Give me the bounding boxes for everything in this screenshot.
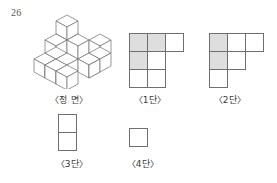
grid-cell <box>129 69 148 88</box>
caption-level4: 〈4단〉 <box>108 157 178 170</box>
isometric-solid-figure <box>26 9 112 89</box>
grid-cell <box>227 33 246 52</box>
isometric-solid-svg <box>26 9 112 89</box>
grid-cell <box>129 33 148 52</box>
grid-cell <box>165 33 184 52</box>
grid-cell <box>209 51 228 70</box>
caption-level3: 〈3단〉 <box>37 157 107 170</box>
grid-cell <box>227 51 246 70</box>
caption-level1: 〈1단〉 <box>115 93 185 106</box>
problem-number: 26 <box>11 7 21 18</box>
caption-level2: 〈2단〉 <box>195 93 265 106</box>
grid-cell <box>209 69 228 88</box>
grid-cell <box>209 33 228 52</box>
grid-cell <box>245 33 264 52</box>
grid-cell <box>147 33 166 52</box>
grid-cell <box>147 51 166 70</box>
caption-front-view: 〈정 면〉 <box>26 93 112 106</box>
grid-cell <box>58 132 77 151</box>
grid-cell <box>129 51 148 70</box>
grid-cell <box>58 114 77 133</box>
worksheet-page: 26 <box>0 0 277 183</box>
grid-cell <box>129 128 148 147</box>
grid-cell <box>147 69 166 88</box>
